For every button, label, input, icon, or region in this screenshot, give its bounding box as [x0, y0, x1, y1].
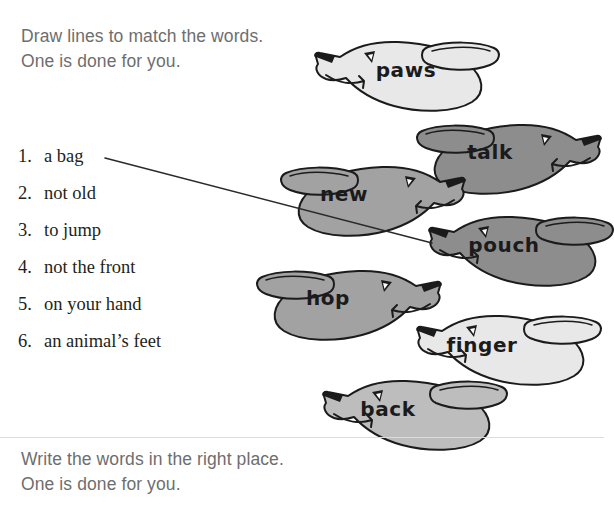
bottom-instruction-line-2: One is done for you. [21, 472, 284, 497]
dog-word-label: hop [306, 286, 350, 310]
word-list-item: 3.to jump [18, 220, 161, 257]
top-instruction-line-1: Draw lines to match the words. [21, 24, 263, 49]
word-list-item-text: not the front [44, 257, 135, 278]
word-list-item-text: to jump [44, 220, 101, 241]
dog-word-label: back [360, 397, 415, 421]
dog-head-shape: back [310, 372, 506, 452]
word-list-item-number: 1. [18, 146, 44, 167]
word-list-item-number: 4. [18, 257, 44, 278]
dog-word-label: finger [446, 333, 517, 357]
dog-head-shape: paws [302, 33, 498, 113]
dog-word-label: paws [376, 58, 437, 82]
word-list-item: 2.not old [18, 183, 161, 220]
dog-word-label: new [320, 182, 368, 206]
word-list-item-number: 5. [18, 294, 44, 315]
word-list-item-number: 6. [18, 331, 44, 352]
section-divider [0, 437, 604, 438]
bottom-instruction-line-1: Write the words in the right place. [21, 447, 284, 472]
top-instructions: Draw lines to match the words. One is do… [21, 24, 263, 74]
word-list: 1.a bag2.not old3.to jump4.not the front… [18, 146, 161, 368]
dog-word-label: pouch [468, 233, 539, 257]
word-list-item-number: 2. [18, 183, 44, 204]
word-list-item-text: an animal’s feet [44, 331, 161, 352]
top-instruction-line-2: One is done for you. [21, 49, 263, 74]
bottom-instructions: Write the words in the right place. One … [21, 447, 284, 497]
word-list-item-text: a bag [44, 146, 84, 167]
word-list-item-text: on your hand [44, 294, 142, 315]
word-list-item: 6.an animal’s feet [18, 331, 161, 368]
word-list-item: 4.not the front [18, 257, 161, 294]
word-list-item: 1.a bag [18, 146, 161, 183]
word-list-item-number: 3. [18, 220, 44, 241]
word-list-item: 5.on your hand [18, 294, 161, 331]
word-list-item-text: not old [44, 183, 96, 204]
